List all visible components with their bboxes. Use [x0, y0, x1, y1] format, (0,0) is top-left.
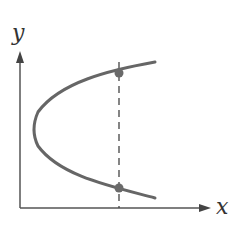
y-axis-arrowhead-icon — [16, 51, 24, 63]
lower-intersection-point — [115, 184, 124, 193]
x-axis-arrowhead-icon — [199, 204, 211, 212]
upper-intersection-point — [115, 69, 124, 78]
diagram-canvas: y x — [0, 0, 233, 225]
parabola-curve — [34, 62, 155, 198]
x-axis-label: x — [216, 194, 229, 219]
y-axis-label: y — [11, 20, 25, 45]
